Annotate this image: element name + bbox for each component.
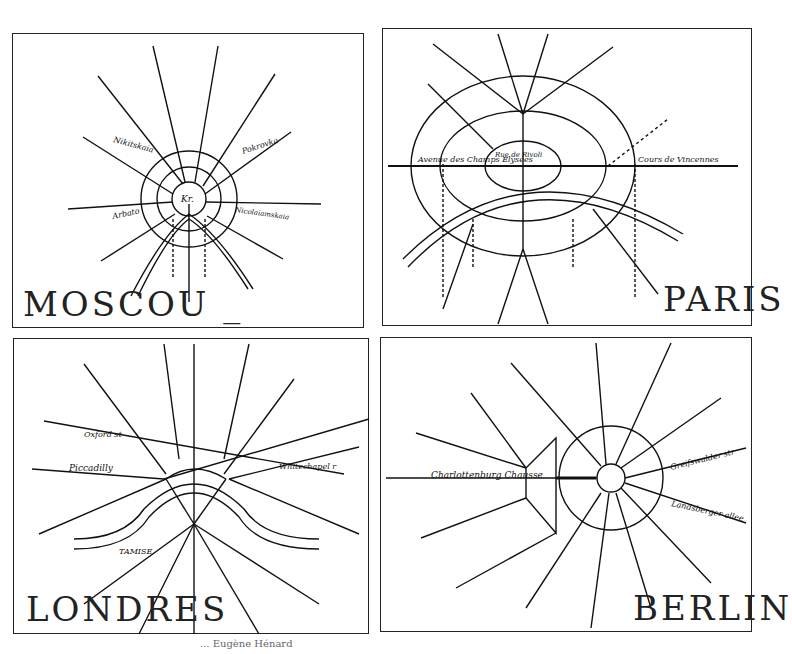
street-pokrovka: Pokrovka (240, 136, 280, 157)
panel-berlin: Charlottenburg Chausse Greifswalder str … (380, 337, 752, 632)
panel-moscou: Nikitskaia Arbato Pokrovka Nicolaiamskai… (12, 33, 364, 328)
street-nikitskaia: Nikitskaia (112, 135, 155, 155)
street-piccadilly: Piccadilly (68, 463, 114, 473)
panel-londres: Oxford st Piccadilly Whitechapel r TAMIS… (13, 338, 369, 634)
river-tamise: TAMISE (119, 547, 153, 556)
street-whitechapel: Whitechapel r (279, 462, 337, 471)
street-landsberger: Landsberger allee (670, 499, 745, 523)
street-cours-vincennes: Cours de Vincennes (638, 155, 719, 164)
title-moscou: MOSCOU _ (23, 284, 243, 324)
street-oxford: Oxford st (84, 430, 122, 439)
title-londres: LONDRES (26, 589, 228, 629)
street-charlottenburg: Charlottenburg Chausse (431, 470, 543, 480)
street-greifswalder: Greifswalder str (669, 447, 736, 472)
title-berlin: BERLIN (633, 588, 792, 628)
street-rivoli: Rue de Rivoli (494, 151, 542, 159)
kremlin-label: Kr. (180, 194, 194, 204)
street-arbato: Arbato (111, 206, 141, 221)
street-nicolaiamskaia: Nicolaiamskaia (234, 206, 290, 222)
figure-caption: ... Eugène Hénard (200, 638, 293, 649)
title-paris: PARIS (663, 279, 785, 319)
panel-paris: Avenue des Champs Elysees Cours de Vince… (382, 28, 752, 326)
